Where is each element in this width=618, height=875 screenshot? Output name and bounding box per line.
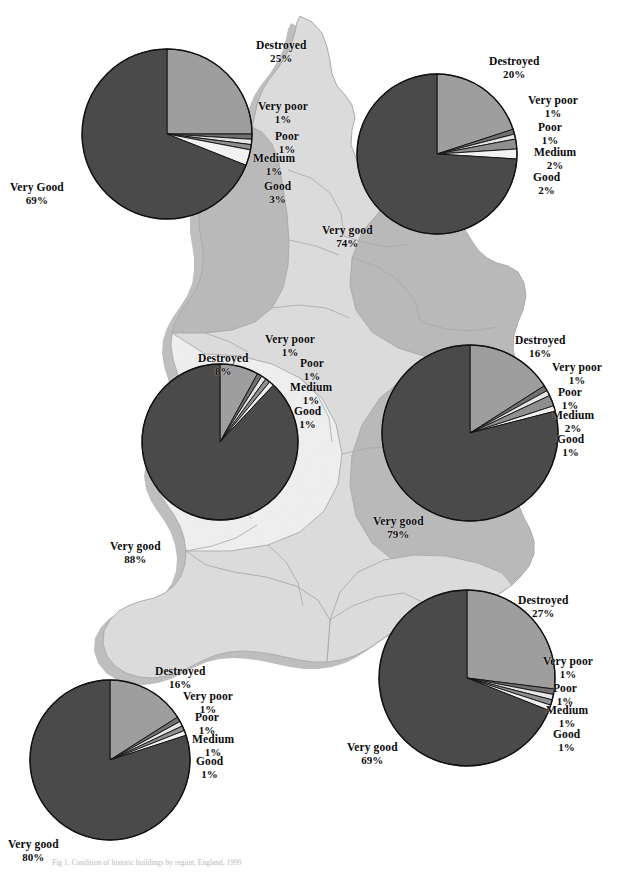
pie-label-text: Medium: [253, 152, 295, 164]
pie-label-text: Good: [533, 171, 560, 183]
pie-chart-layer: [0, 0, 618, 875]
pie-label-value: 25%: [256, 52, 307, 65]
pie-label-text: Medium: [290, 381, 332, 393]
pie-label-medium: Medium1%: [253, 152, 295, 177]
pie-slice-destroyed: [167, 49, 252, 134]
pie-label-good: Good1%: [294, 405, 321, 430]
figure-canvas: Destroyed25%Very poor1%Poor1%Medium1%Goo…: [0, 0, 618, 875]
pie-label-value: 79%: [373, 528, 424, 541]
pie-label-destroyed: Destroyed16%: [155, 665, 206, 690]
pie-label-text: Poor: [553, 682, 577, 694]
pie-label-text: Destroyed: [256, 39, 307, 51]
pie-label-value: 88%: [110, 553, 161, 566]
pie-label-good: Good3%: [264, 180, 291, 205]
pie-label-medium: Medium2%: [534, 146, 576, 171]
pie-label-value: 1%: [557, 446, 584, 459]
pie-label-value: 1%: [258, 113, 308, 126]
pie-slice-very-good: [142, 364, 298, 520]
pie-chart-west-midlands: [142, 364, 298, 520]
pie-label-very-good: Very good79%: [373, 515, 424, 540]
pie-label-text: Destroyed: [489, 55, 540, 67]
pie-label-text: Good: [553, 728, 580, 740]
pie-label-value: 8%: [198, 365, 249, 378]
pie-label-very-good: Very good88%: [110, 540, 161, 565]
pie-label-good: Good1%: [553, 728, 580, 753]
pie-label-text: Poor: [275, 130, 299, 142]
pie-label-value: 1%: [528, 107, 578, 120]
pie-label-very-poor: Very poor1%: [552, 361, 602, 386]
pie-label-destroyed: Destroyed16%: [515, 334, 566, 359]
pie-label-text: Destroyed: [515, 334, 566, 346]
pie-label-text: Very good: [110, 540, 161, 552]
pie-label-text: Very Good: [10, 181, 64, 193]
pie-label-text: Good: [264, 180, 291, 192]
pie-label-medium: Medium1%: [290, 381, 332, 406]
pie-label-text: Destroyed: [198, 352, 249, 364]
pie-label-text: Medium: [534, 146, 576, 158]
pie-label-very-poor: Very poor1%: [543, 655, 593, 680]
pie-label-value: 3%: [264, 193, 291, 206]
pie-label-text: Medium: [192, 733, 234, 745]
pie-label-destroyed: Destroyed8%: [198, 352, 249, 377]
figure-caption: Fig 1. Condition of historic buildings b…: [52, 858, 592, 867]
pie-label-text: Good: [196, 755, 223, 767]
pie-label-very-good: Very Good69%: [10, 181, 64, 206]
pie-label-text: Very poor: [183, 690, 233, 702]
pie-label-text: Very poor: [528, 94, 578, 106]
pie-chart-north-east: [357, 74, 517, 234]
pie-label-text: Medium: [546, 704, 588, 716]
pie-label-value: 2%: [533, 184, 560, 197]
pie-label-good: Good1%: [196, 755, 223, 780]
pie-label-good: Good2%: [533, 171, 560, 196]
pie-label-value: 20%: [489, 68, 540, 81]
pie-label-poor: Poor1%: [538, 121, 562, 146]
pie-label-very-poor: Very poor1%: [265, 333, 315, 358]
pie-label-medium: Medium1%: [546, 704, 588, 729]
pie-label-value: 1%: [253, 165, 295, 178]
pie-label-value: 16%: [515, 347, 566, 360]
pie-label-medium: Medium2%: [552, 409, 594, 434]
pie-label-destroyed: Destroyed25%: [256, 39, 307, 64]
pie-label-value: 1%: [294, 418, 321, 431]
pie-label-text: Good: [557, 433, 584, 445]
pie-label-value: 2%: [534, 159, 576, 172]
pie-label-value: 69%: [10, 194, 64, 207]
pie-label-text: Very good: [322, 224, 373, 236]
pie-label-text: Destroyed: [155, 665, 206, 677]
pie-label-value: 69%: [347, 754, 398, 767]
pie-label-text: Very poor: [265, 333, 315, 345]
pie-label-value: 74%: [322, 237, 373, 250]
pie-label-text: Very poor: [543, 655, 593, 667]
pie-label-destroyed: Destroyed20%: [489, 55, 540, 80]
pie-label-poor: Poor1%: [300, 357, 324, 382]
pie-label-value: 1%: [538, 134, 562, 147]
pie-chart-south-west: [30, 680, 190, 840]
pie-label-very-poor: Very poor1%: [258, 100, 308, 125]
pie-label-very-good: Very good69%: [347, 741, 398, 766]
pie-label-text: Poor: [195, 711, 219, 723]
pie-label-text: Medium: [552, 409, 594, 421]
pie-label-text: Poor: [538, 121, 562, 133]
pie-chart-north-west: [82, 49, 252, 219]
pie-label-text: Very poor: [258, 100, 308, 112]
pie-label-value: 1%: [553, 741, 580, 754]
pie-label-good: Good1%: [557, 433, 584, 458]
pie-label-very-good: Very good74%: [322, 224, 373, 249]
pie-label-text: Very good: [373, 515, 424, 527]
pie-label-text: Very good: [347, 741, 398, 753]
pie-label-text: Poor: [300, 357, 324, 369]
pie-chart-east-midlands: [382, 345, 558, 521]
pie-label-value: 1%: [543, 668, 593, 681]
pie-label-text: Destroyed: [518, 594, 569, 606]
pie-label-text: Very poor: [552, 361, 602, 373]
pie-label-value: 1%: [196, 768, 223, 781]
pie-label-value: 27%: [518, 607, 569, 620]
pie-label-value: 1%: [552, 374, 602, 387]
pie-label-poor: Poor1%: [558, 386, 582, 411]
pie-label-value: 16%: [155, 678, 206, 691]
pie-label-text: Poor: [558, 386, 582, 398]
pie-label-very-poor: Very poor1%: [528, 94, 578, 119]
pie-label-text: Good: [294, 405, 321, 417]
pie-label-destroyed: Destroyed27%: [518, 594, 569, 619]
pie-label-text: Very good: [8, 838, 59, 850]
